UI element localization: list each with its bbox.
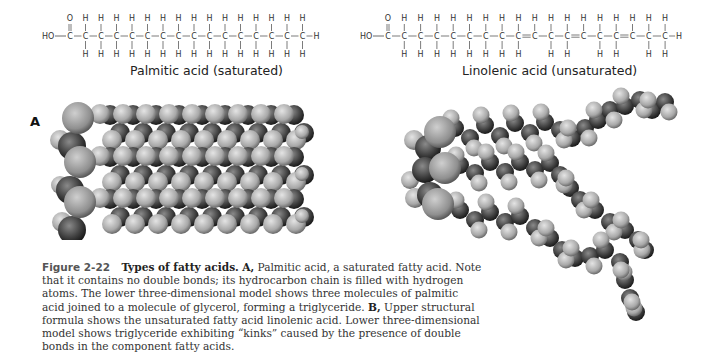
svg-text:C: C — [434, 32, 440, 41]
svg-text:C: C — [630, 32, 636, 41]
svg-text:H: H — [515, 14, 521, 23]
svg-text:H: H — [268, 50, 274, 58]
svg-text:H: H — [175, 14, 181, 23]
svg-text:C: C — [548, 32, 554, 41]
palmitic-acid-label: Palmitic acid (saturated) — [130, 63, 283, 78]
svg-text:H: H — [160, 14, 166, 23]
svg-text:H: H — [613, 14, 619, 23]
figure-caption: Figure 2-22 Types of fatty acids. A, Pal… — [42, 261, 482, 353]
svg-text:H: H — [499, 50, 505, 58]
svg-text:C: C — [176, 32, 182, 41]
svg-text:C: C — [597, 32, 603, 41]
svg-text:H: H — [450, 14, 456, 23]
svg-text:H: H — [113, 50, 119, 58]
svg-text:H: H — [82, 14, 88, 23]
svg-text:H: H — [418, 14, 424, 23]
svg-text:H: H — [418, 50, 424, 58]
svg-text:O: O — [67, 14, 73, 23]
caption-b-marker: B, — [368, 301, 381, 313]
svg-text:H: H — [597, 50, 603, 58]
svg-text:H: H — [434, 14, 440, 23]
svg-text:C: C — [467, 32, 473, 41]
svg-text:C: C — [613, 32, 619, 41]
svg-text:H: H — [662, 50, 668, 58]
figure-number: Figure 2-22 — [42, 261, 110, 273]
svg-text:H: H — [206, 50, 212, 58]
svg-text:C: C — [222, 32, 228, 41]
svg-text:H: H — [98, 50, 104, 58]
svg-text:H: H — [253, 50, 259, 58]
svg-text:C: C — [565, 32, 571, 41]
svg-text:H: H — [629, 14, 635, 23]
svg-text:H: H — [299, 50, 305, 58]
svg-text:H: H — [483, 50, 489, 58]
svg-text:C: C — [402, 32, 408, 41]
svg-text:C: C — [191, 32, 197, 41]
svg-text:H: H — [676, 32, 682, 41]
svg-text:C: C — [114, 32, 120, 41]
svg-text:H: H — [98, 14, 104, 23]
svg-text:H: H — [564, 14, 570, 23]
svg-text:H: H — [434, 50, 440, 58]
svg-text:H: H — [613, 50, 619, 58]
svg-text:H: H — [160, 50, 166, 58]
svg-text:C: C — [98, 32, 104, 41]
svg-text:H: H — [222, 50, 228, 58]
svg-text:H: H — [548, 50, 554, 58]
svg-text:H: H — [646, 14, 652, 23]
svg-text:H: H — [222, 14, 228, 23]
svg-text:C: C — [269, 32, 275, 41]
svg-text:C: C — [499, 32, 505, 41]
svg-text:C: C — [129, 32, 135, 41]
linolenic-acid-structural-formula: HOCOCHHCHHCHHCHHCHHCHHCHHCHHCHCHHCHHCHCH… — [358, 8, 698, 58]
svg-text:H: H — [144, 50, 150, 58]
svg-text:H: H — [253, 14, 259, 23]
palmitic-acid-structural-formula: HOCOCHHCHHCHHCHHCHHCHHCHHCHHCHHCHHCHHCHH… — [40, 8, 340, 58]
svg-text:H: H — [129, 50, 135, 58]
svg-text:H: H — [401, 14, 407, 23]
svg-text:H: H — [466, 50, 472, 58]
svg-text:C: C — [83, 32, 89, 41]
svg-text:C: C — [253, 32, 259, 41]
svg-text:H: H — [548, 14, 554, 23]
svg-text:H: H — [191, 14, 197, 23]
svg-text:H: H — [206, 14, 212, 23]
svg-text:C: C — [385, 32, 391, 41]
svg-text:H: H — [299, 14, 305, 23]
svg-text:C: C — [581, 32, 587, 41]
svg-text:H: H — [532, 14, 538, 23]
svg-text:H: H — [268, 14, 274, 23]
svg-text:HO: HO — [360, 32, 372, 41]
svg-text:C: C — [450, 32, 456, 41]
svg-text:H: H — [646, 50, 652, 58]
svg-text:H: H — [237, 50, 243, 58]
svg-text:H: H — [466, 14, 472, 23]
svg-text:H: H — [175, 50, 181, 58]
svg-text:C: C — [284, 32, 290, 41]
svg-text:H: H — [144, 14, 150, 23]
svg-text:H: H — [483, 14, 489, 23]
caption-a-marker: A, — [242, 261, 254, 273]
svg-text:H: H — [581, 14, 587, 23]
svg-text:H: H — [401, 50, 407, 58]
svg-text:H: H — [314, 32, 320, 41]
svg-text:C: C — [160, 32, 166, 41]
svg-text:H: H — [82, 50, 88, 58]
svg-text:H: H — [191, 50, 197, 58]
svg-text:H: H — [113, 14, 119, 23]
svg-text:H: H — [237, 14, 243, 23]
svg-text:C: C — [300, 32, 306, 41]
svg-text:H: H — [564, 50, 570, 58]
svg-text:H: H — [662, 14, 668, 23]
svg-text:H: H — [450, 50, 456, 58]
svg-text:H: H — [499, 14, 505, 23]
svg-text:HO: HO — [42, 32, 54, 41]
svg-text:C: C — [662, 32, 668, 41]
svg-text:H: H — [515, 50, 521, 58]
svg-text:O: O — [385, 14, 391, 23]
svg-text:C: C — [207, 32, 213, 41]
svg-text:H: H — [129, 14, 135, 23]
svg-text:C: C — [516, 32, 522, 41]
svg-text:H: H — [284, 14, 290, 23]
svg-text:C: C — [532, 32, 538, 41]
